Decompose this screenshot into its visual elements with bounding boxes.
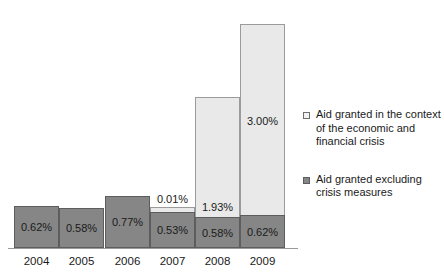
bar-segment-crisis-label-2009: 3.00% (241, 115, 284, 127)
legend-item-crisis[interactable]: Aid granted in the context of the econom… (303, 108, 444, 149)
legend-swatch-crisis-icon (303, 112, 310, 119)
bar-segment-base-2008[interactable]: 0.58% (195, 217, 240, 248)
x-tick-2004: 2004 (14, 254, 59, 268)
plot-area: 0.62% 2004 0.58% 2005 0.77% 2006 0.54% 0… (0, 0, 300, 277)
bar-segment-crisis-label-2007: 0.01% (151, 193, 194, 205)
bar-group-2004[interactable]: 0.62% (14, 206, 59, 248)
x-tick-2008: 2008 (195, 254, 240, 268)
bar-group-2005[interactable]: 0.58% (59, 208, 104, 248)
bar-segment-base-label-2005: 0.58% (60, 222, 103, 234)
bar-segment-base-2007[interactable]: 0.53% (150, 212, 195, 248)
bar-segment-base-label-2008: 0.58% (196, 227, 239, 239)
bar-segment-base-label-2004: 0.62% (15, 221, 58, 233)
stacked-bar-chart: 0.62% 2004 0.58% 2005 0.77% 2006 0.54% 0… (0, 0, 444, 277)
bar-group-2006[interactable]: 0.77% (105, 196, 150, 248)
x-tick-2006: 2006 (105, 254, 150, 268)
bar-group-2007[interactable]: 0.54% 0.01% 0.53% (150, 207, 195, 248)
chart-legend: Aid granted in the context of the econom… (303, 108, 444, 224)
bar-segment-crisis-2009[interactable]: 3.00% (240, 24, 285, 215)
x-tick-2005: 2005 (59, 254, 104, 268)
bar-segment-base-label-2009: 0.62% (241, 226, 284, 238)
legend-label-crisis: Aid granted in the context of the econom… (316, 108, 444, 149)
legend-label-base: Aid granted excluding crisis measures (316, 173, 444, 200)
bar-segment-crisis-2008[interactable]: 1.93% (195, 97, 240, 217)
x-tick-2009: 2009 (240, 254, 285, 268)
bar-segment-base-2004[interactable]: 0.62% (14, 206, 59, 248)
legend-swatch-base-icon (303, 177, 310, 184)
bar-segment-base-2009[interactable]: 0.62% (240, 215, 285, 248)
bar-group-2008[interactable]: 2.51% 1.93% 0.58% (195, 97, 240, 248)
bar-segment-crisis-label-2008: 1.93% (196, 201, 239, 213)
bar-segment-base-label-2006: 0.77% (106, 216, 149, 228)
x-axis-line (8, 248, 298, 249)
bar-segment-base-label-2007: 0.53% (151, 224, 194, 236)
x-tick-2007: 2007 (150, 254, 195, 268)
legend-item-base[interactable]: Aid granted excluding crisis measures (303, 173, 444, 200)
bar-segment-base-2006[interactable]: 0.77% (105, 196, 150, 248)
bar-segment-base-2005[interactable]: 0.58% (59, 208, 104, 248)
bar-group-2009[interactable]: 3.62% 3.00% 0.62% (240, 24, 285, 248)
